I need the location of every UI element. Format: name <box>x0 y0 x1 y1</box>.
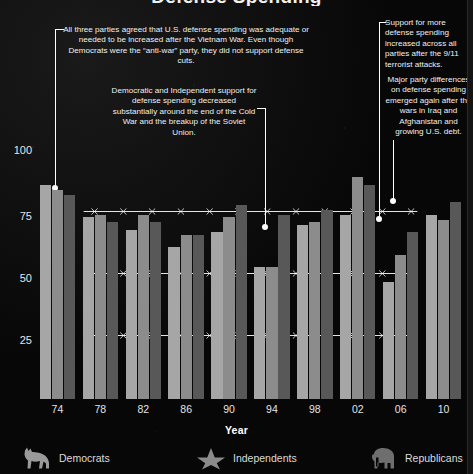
bar-independents-98 <box>309 222 320 399</box>
bar-republicans-90 <box>236 205 247 399</box>
x-tick-78: 78 <box>95 403 107 415</box>
x-tick-86: 86 <box>180 403 192 415</box>
legend-label-independents: Independents <box>233 452 297 464</box>
right-edge-strip <box>467 0 473 474</box>
y-tick-75: 75 <box>2 210 32 222</box>
bar-republicans-10 <box>450 202 461 399</box>
bar-democrats-98 <box>297 225 308 399</box>
bar-republicans-86 <box>193 235 204 399</box>
bar-democrats-86 <box>168 247 179 399</box>
bar-group-02 <box>340 150 375 399</box>
annotation-coldwar: Democratic and Independent support for d… <box>111 86 257 138</box>
plot-area <box>36 150 465 399</box>
bar-republicans-74 <box>64 195 75 399</box>
bar-republicans-82 <box>150 222 161 399</box>
bar-independents-02 <box>352 177 363 399</box>
y-tick-25: 25 <box>2 334 32 346</box>
bar-independents-82 <box>138 215 149 399</box>
x-axis-title: Year <box>0 424 473 436</box>
x-axis: 74788286909498020610 <box>36 400 465 418</box>
bar-group-98 <box>297 150 332 399</box>
bar-democrats-10 <box>426 215 437 399</box>
annotation-vietnam: All three parties agreed that U.S. defen… <box>63 25 309 67</box>
bar-group-82 <box>126 150 161 399</box>
bar-republicans-02 <box>364 185 375 399</box>
bar-group-86 <box>168 150 203 399</box>
bar-democrats-90 <box>211 232 222 399</box>
bar-independents-94 <box>266 267 277 399</box>
bar-group-06 <box>383 150 418 399</box>
elephant-icon <box>368 446 398 470</box>
bar-independents-74 <box>52 190 63 399</box>
bar-independents-86 <box>181 235 192 399</box>
bar-democrats-06 <box>383 282 394 399</box>
legend-label-republicans: Republicans <box>405 452 463 464</box>
bar-group-74 <box>40 150 75 399</box>
bar-democrats-78 <box>83 217 94 399</box>
annotation-911: Support for more defense spending increa… <box>385 18 473 70</box>
legend-item-democrats[interactable]: Democrats <box>22 446 110 470</box>
y-axis: 100 75 50 25 <box>0 150 32 399</box>
legend-label-democrats: Democrats <box>59 452 110 464</box>
legend-item-independents[interactable]: Independents <box>196 446 297 470</box>
x-tick-10: 10 <box>438 403 450 415</box>
bar-independents-06 <box>395 255 406 399</box>
leader-911-elbow <box>379 22 386 23</box>
bar-republicans-78 <box>107 222 118 399</box>
bar-republicans-94 <box>278 215 289 399</box>
bar-democrats-94 <box>254 267 265 399</box>
x-tick-90: 90 <box>223 403 235 415</box>
x-tick-94: 94 <box>266 403 278 415</box>
bar-group-90 <box>211 150 246 399</box>
bar-group-94 <box>254 150 289 399</box>
y-tick-100: 100 <box>2 144 32 156</box>
bar-democrats-82 <box>126 230 137 399</box>
x-tick-82: 82 <box>137 403 149 415</box>
legend: Democrats Independents Republicans <box>0 444 473 474</box>
donkey-icon <box>22 446 52 470</box>
legend-item-republicans[interactable]: Republicans <box>368 446 463 470</box>
star-icon <box>196 446 226 470</box>
annotation-iraq: Major party differences on defense spend… <box>384 75 473 137</box>
chart-canvas: Defense Spending All three parties agree… <box>0 0 473 474</box>
bar-democrats-02 <box>340 215 351 399</box>
x-tick-74: 74 <box>52 403 64 415</box>
bar-independents-10 <box>438 220 449 399</box>
leader-vietnam-elbow <box>55 29 64 30</box>
bar-independents-90 <box>223 217 234 399</box>
x-tick-98: 98 <box>309 403 321 415</box>
x-tick-02: 02 <box>352 403 364 415</box>
bar-republicans-06 <box>407 232 418 399</box>
y-tick-50: 50 <box>2 272 32 284</box>
bar-group-10 <box>426 150 461 399</box>
bar-republicans-98 <box>321 210 332 399</box>
bar-independents-78 <box>95 215 106 399</box>
bar-democrats-74 <box>40 185 51 399</box>
x-tick-06: 06 <box>395 403 407 415</box>
bar-group-78 <box>83 150 118 399</box>
chart-title: Defense Spending <box>0 0 473 6</box>
